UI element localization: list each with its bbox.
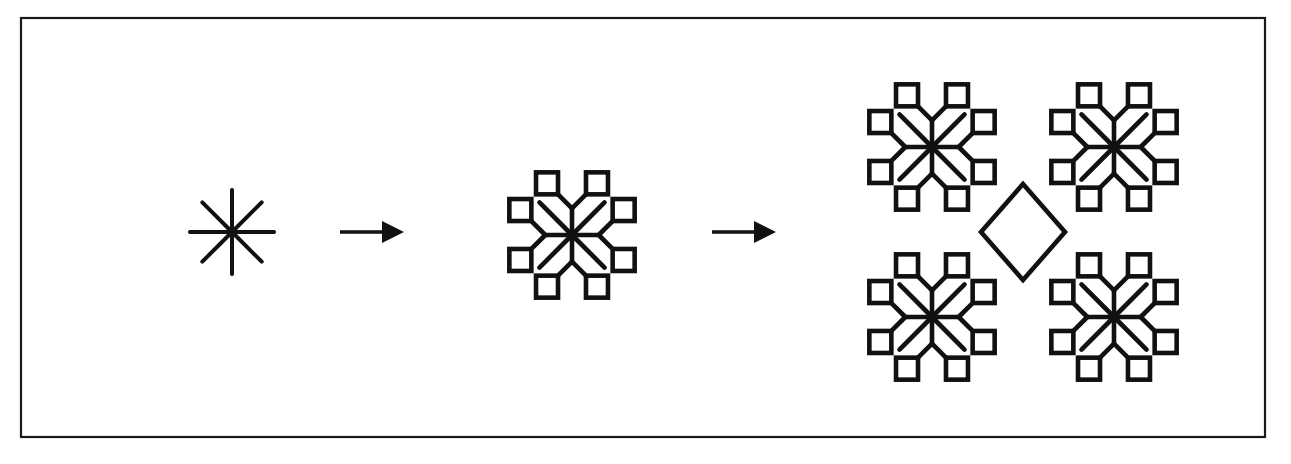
motif-tip-square	[1078, 84, 1100, 106]
motif-tip-square	[1155, 331, 1177, 353]
motif-tip-square	[509, 249, 531, 271]
motif-tip-square	[946, 254, 968, 276]
motif-tip-square	[613, 199, 635, 221]
motif-tip-square	[1155, 111, 1177, 133]
motif-tip-square	[973, 161, 995, 183]
motif-tip-square	[946, 358, 968, 380]
motif-tip-square	[1078, 188, 1100, 210]
figure-root	[0, 0, 1291, 464]
motif-tip-square	[1128, 358, 1150, 380]
motif	[190, 190, 274, 274]
motif-tip-square	[946, 84, 968, 106]
motif-tip-square	[1155, 281, 1177, 303]
motif-tip-square	[896, 254, 918, 276]
motif-tip-square	[1051, 161, 1073, 183]
motif-tip-square	[1078, 358, 1100, 380]
motif-tip-square	[1051, 331, 1073, 353]
motif-tip-square	[586, 276, 608, 298]
motif-tip-square	[896, 84, 918, 106]
motif-tip-square	[869, 111, 891, 133]
motif-tip-square	[1128, 254, 1150, 276]
motif-tip-square	[536, 276, 558, 298]
fractal-construction-diagram	[0, 0, 1291, 464]
motif-tip-square	[1051, 111, 1073, 133]
motif-tip-square	[946, 188, 968, 210]
motif-tip-square	[1128, 188, 1150, 210]
motif-tip-square	[536, 172, 558, 194]
motif-tip-square	[1078, 254, 1100, 276]
motif-tip-square	[1051, 281, 1073, 303]
motif-tip-square	[869, 331, 891, 353]
motif-tip-square	[613, 249, 635, 271]
motif-tip-square	[896, 188, 918, 210]
motif-tip-square	[896, 358, 918, 380]
motif-tip-square	[973, 111, 995, 133]
motif-tip-square	[973, 331, 995, 353]
motif-tip-square	[1128, 84, 1150, 106]
motif-tip-square	[869, 281, 891, 303]
motif-tip-square	[869, 161, 891, 183]
motif-tip-square	[509, 199, 531, 221]
motif-tip-square	[973, 281, 995, 303]
motif-tip-square	[586, 172, 608, 194]
initiator-asterisk	[190, 190, 274, 274]
motif-tip-square	[1155, 161, 1177, 183]
